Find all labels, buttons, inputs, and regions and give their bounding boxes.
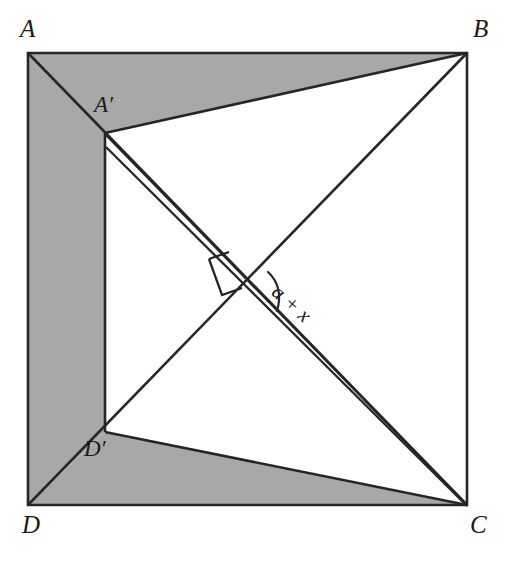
vertex-label-b: B	[473, 16, 488, 41]
vertex-label-d-prime: D′	[84, 437, 106, 460]
diagram-canvas	[0, 0, 513, 563]
vertex-label-a: A	[20, 16, 35, 41]
vertex-label-c: C	[470, 512, 487, 537]
geometry-figure: A B C D A′ D′ a + x	[0, 0, 513, 563]
vertex-label-a-prime: A′	[94, 93, 113, 116]
vertex-label-d: D	[22, 512, 40, 537]
